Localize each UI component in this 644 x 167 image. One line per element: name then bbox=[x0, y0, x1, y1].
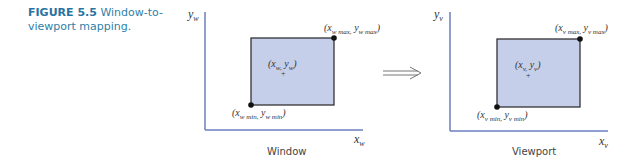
window-y-label: yw bbox=[187, 7, 199, 23]
viewport-min-label: (xv min, yv min) bbox=[477, 109, 528, 123]
viewport-max-label: (xv max, yv max) bbox=[555, 22, 609, 36]
window-min-label: (xw min, yw min) bbox=[232, 107, 286, 121]
window-inner-plus: + bbox=[281, 69, 286, 78]
window-max-dot bbox=[331, 35, 337, 41]
window-title: Window bbox=[267, 146, 306, 157]
viewport-min-dot bbox=[494, 104, 500, 110]
diagram: yw xw (xw max, yw max) (xw min, yw min) … bbox=[0, 0, 644, 167]
viewport-inner-plus: + bbox=[526, 71, 531, 80]
viewport-rect bbox=[497, 39, 580, 107]
viewport-max-dot bbox=[577, 36, 583, 42]
viewport-panel: yv xv (xv max, yv max) (xv min, yv min) … bbox=[433, 7, 609, 157]
viewport-title: Viewport bbox=[512, 146, 556, 157]
viewport-x-label: xv bbox=[598, 134, 608, 150]
window-panel: yw xw (xw max, yw max) (xw min, yw min) … bbox=[187, 7, 381, 157]
mapping-arrow bbox=[383, 67, 421, 79]
viewport-y-label: yv bbox=[433, 7, 443, 23]
window-max-label: (xw max, yw max) bbox=[324, 22, 381, 36]
window-min-dot bbox=[248, 102, 254, 108]
window-x-label: xw bbox=[353, 132, 365, 148]
